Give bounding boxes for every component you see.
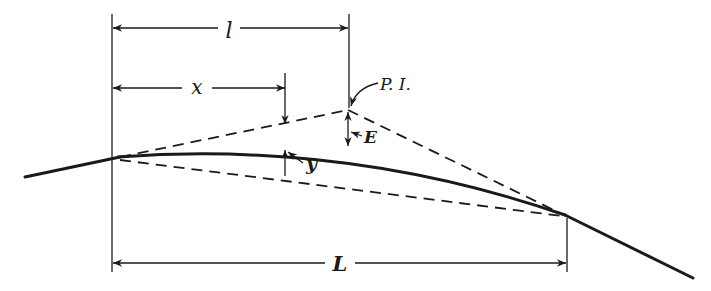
chord-dashed <box>120 160 562 216</box>
back-grade-line <box>25 157 120 177</box>
pi-leader <box>351 83 378 106</box>
label-offset: y <box>305 152 319 174</box>
label-external: E <box>363 127 378 147</box>
forward-grade-line <box>565 215 693 278</box>
dimension-e <box>348 112 362 146</box>
vertical-curve <box>118 154 565 215</box>
forward-tangent-dashed <box>348 110 560 213</box>
profile <box>25 154 693 278</box>
label-distance: x <box>191 75 202 99</box>
label-half-length: l <box>225 18 232 43</box>
label-pi: P. I. <box>379 74 411 94</box>
dimension-y <box>285 150 303 176</box>
label-length: L <box>332 251 348 276</box>
back-tangent-dashed <box>120 110 348 157</box>
vertical-curve-diagram: l x P. I. E y L <box>0 0 711 291</box>
extension-lines <box>112 14 567 272</box>
